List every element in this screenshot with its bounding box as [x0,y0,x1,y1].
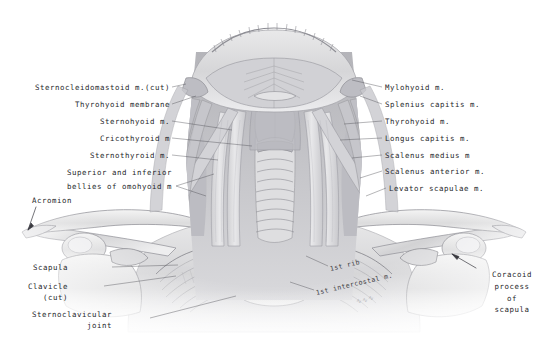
label-mylohyoid: Mylohyoid m. [385,83,445,93]
label-coracoid-line1: Coracoid [492,270,532,281]
label-longus-capitis: Longus capitis m. [385,134,470,144]
label-clavicle: Clavicle [28,282,68,292]
label-sternoclavicular-line2: joint [87,321,112,331]
label-scalenus-anterior: Scalenus anterior m. [385,167,485,177]
label-levator-scapulae: Levator scapulae m. [389,184,484,194]
label-scalenus-medius: Scalenus medius m [385,151,470,161]
label-sternothyroid: Sternothyroid m. [90,151,170,161]
label-omohyoid-line1: Superior and inferior [67,168,172,178]
label-thyrohyoid-m: Thyrohyoid m. [385,117,450,127]
label-sternoclavicular-line1: Sternoclavicular [32,310,112,320]
label-sternocleidomastoid: Sternocleidomastoid m.(cut) [35,83,170,93]
label-acromion: Acromion [32,196,72,206]
label-omohyoid-line2: bellies of omohyoid m [67,182,172,192]
label-scapula: Scapula [33,263,68,273]
label-coracoid-line3: of scapula [494,294,530,315]
label-cricothyroid: Cricothyroid m [100,134,170,144]
label-splenius-capitis: Splenius capitis m. [385,100,480,110]
label-sternohyoid: Sternohyoid m. [100,117,170,127]
label-clavicle-cut: (cut) [43,293,68,303]
anatomical-plate: Sternocleidomastoid m.(cut) Thyrohyoid m… [0,0,548,348]
label-thyrohyoid-membrane: Thyrohyoid membrane [75,100,170,110]
label-coracoid-line2: process [495,282,530,293]
